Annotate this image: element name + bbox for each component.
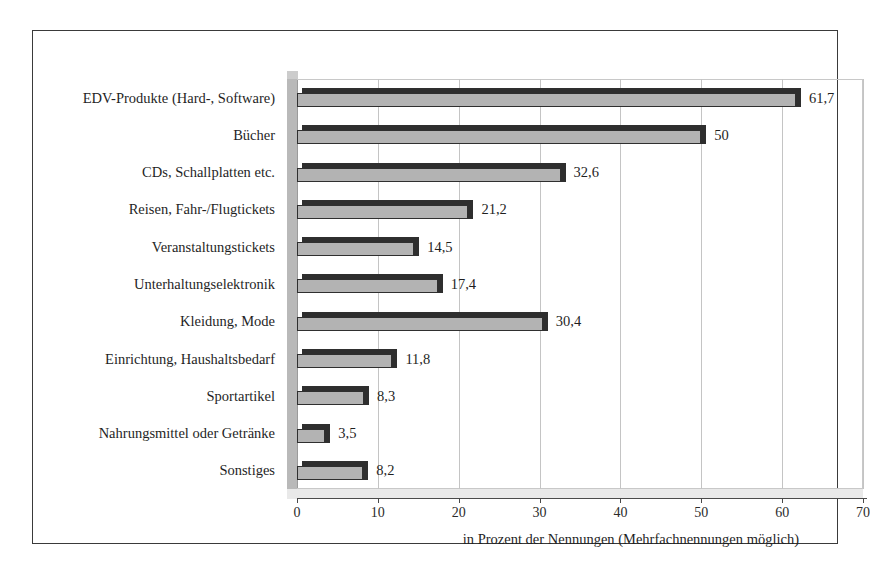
bar-front-face: [297, 317, 543, 331]
chart-frame: EDV-Produkte (Hard-, Software)61,7Bücher…: [32, 30, 838, 544]
tick-mark-70: [863, 498, 864, 503]
bar-front-face: [297, 168, 561, 182]
bar-value-label: 8,2: [376, 462, 394, 479]
bar: [297, 461, 363, 480]
category-label: Kleidung, Mode: [180, 313, 275, 330]
bar-front-face: [297, 205, 468, 219]
tick-mark-20: [459, 498, 460, 503]
bar-side-face: [468, 200, 473, 219]
bar-row: Einrichtung, Haushaltsbedarf11,8: [297, 340, 863, 377]
category-label: Veranstaltungstickets: [152, 238, 275, 255]
bar-value-label: 21,2: [481, 201, 506, 218]
chart-left-wall-top: [287, 71, 298, 79]
bar: [297, 125, 701, 144]
category-label: Nahrungsmittel oder Getränke: [99, 425, 275, 442]
category-label: Reisen, Fahr-/Flugtickets: [129, 201, 275, 218]
bar-side-face: [796, 88, 801, 107]
tick-mark-40: [620, 498, 621, 503]
x-tick-label: 40: [613, 505, 627, 521]
bar: [297, 237, 414, 256]
bar: [297, 424, 325, 443]
x-tick-label: 30: [533, 505, 547, 521]
bar-value-label: 50: [714, 126, 729, 143]
bar: [297, 386, 364, 405]
bar: [297, 312, 543, 331]
bar-value-label: 17,4: [451, 275, 476, 292]
bar-side-face: [561, 163, 566, 182]
bar-value-label: 30,4: [556, 313, 581, 330]
bar-value-label: 61,7: [809, 89, 834, 106]
bar-front-face: [297, 429, 325, 443]
bar: [297, 163, 561, 182]
x-tick-label: 50: [694, 505, 708, 521]
bar-row: Sportartikel8,3: [297, 377, 863, 414]
x-tick-label: 60: [775, 505, 789, 521]
bar-side-face: [438, 274, 443, 293]
bar: [297, 88, 796, 107]
category-label: Sonstiges: [219, 462, 275, 479]
bar-side-face: [363, 461, 368, 480]
bar-side-face: [701, 125, 706, 144]
bar-side-face: [364, 386, 369, 405]
x-tick-label: 10: [371, 505, 385, 521]
bar-row: Veranstaltungstickets14,5: [297, 228, 863, 265]
bar-value-label: 14,5: [427, 238, 452, 255]
bar-front-face: [297, 93, 796, 107]
tick-mark-10: [378, 498, 379, 503]
tick-mark-50: [701, 498, 702, 503]
bar-row: Nahrungsmittel oder Getränke3,5: [297, 414, 863, 451]
bar-row: Bücher50: [297, 116, 863, 153]
category-label: EDV-Produkte (Hard-, Software): [83, 89, 275, 106]
bar-front-face: [297, 130, 701, 144]
bar-front-face: [297, 466, 363, 480]
tick-mark-0: [297, 498, 298, 503]
bar-value-label: 8,3: [377, 387, 395, 404]
tick-mark-60: [782, 498, 783, 503]
category-label: Unterhaltungselektronik: [134, 275, 275, 292]
category-label: Einrichtung, Haushaltsbedarf: [105, 350, 275, 367]
bar-value-label: 3,5: [338, 425, 356, 442]
category-label: Sportartikel: [207, 387, 275, 404]
bar-front-face: [297, 391, 364, 405]
x-tick-label: 20: [452, 505, 466, 521]
bar-side-face: [392, 349, 397, 368]
bar-front-face: [297, 279, 438, 293]
bar-row: CDs, Schallplatten etc.32,6: [297, 154, 863, 191]
bar: [297, 274, 438, 293]
x-tick-label: 70: [856, 505, 870, 521]
bar-row: Unterhaltungselektronik17,4: [297, 265, 863, 302]
x-axis-caption: in Prozent der Nennungen (Mehrfachnennun…: [463, 531, 799, 548]
bar-front-face: [297, 354, 392, 368]
bar-side-face: [325, 424, 330, 443]
bar-row: Sonstiges8,2: [297, 452, 863, 489]
bar-side-face: [543, 312, 548, 331]
bar-value-label: 32,6: [574, 164, 599, 181]
bar-row: EDV-Produkte (Hard-, Software)61,7: [297, 79, 863, 116]
plot-area: EDV-Produkte (Hard-, Software)61,7Bücher…: [297, 79, 863, 489]
bar: [297, 349, 392, 368]
bar-side-face: [414, 237, 419, 256]
bar-row: Reisen, Fahr-/Flugtickets21,2: [297, 191, 863, 228]
bar-value-label: 11,8: [405, 350, 430, 367]
bar: [297, 200, 468, 219]
category-label: Bücher: [233, 126, 275, 143]
bar-front-face: [297, 242, 414, 256]
x-tick-label: 0: [294, 505, 301, 521]
bar-row: Kleidung, Mode30,4: [297, 303, 863, 340]
gridline-70: [863, 79, 864, 489]
tick-mark-30: [540, 498, 541, 503]
category-label: CDs, Schallplatten etc.: [142, 164, 275, 181]
